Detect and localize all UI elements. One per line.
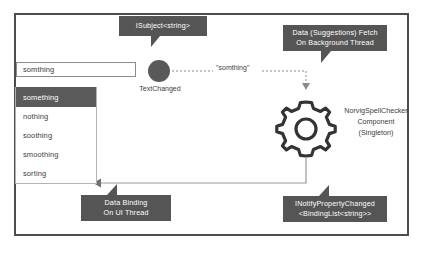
- callout-fetch: Data (Suggestions) Fetch On Background T…: [283, 25, 387, 51]
- list-item[interactable]: something: [16, 87, 96, 107]
- callout-databinding: Data Binding On UI Thread: [81, 195, 171, 221]
- callout-subject-line-1: ISubject<string>: [136, 21, 190, 31]
- list-item-label: smoothing: [23, 150, 59, 159]
- component-kind: Component: [336, 116, 416, 127]
- callout-tail: [151, 36, 160, 47]
- list-item[interactable]: sorting: [16, 164, 96, 183]
- observable-node-label: TextChanged: [128, 85, 192, 92]
- callout-fetch-line-2: On Background Thread: [296, 38, 374, 48]
- callout-inpc-line-1: INotifyPropertyChanged: [295, 199, 375, 209]
- callout-tail: [107, 184, 117, 195]
- list-item[interactable]: smoothing: [16, 145, 96, 164]
- callout-subject: ISubject<string>: [119, 16, 207, 36]
- component-label: NorvigSpellChecker Component (Singleton): [336, 105, 416, 138]
- edge-label-payload: "somthing": [214, 64, 251, 71]
- component-lifetime: (Singleton): [336, 127, 416, 138]
- callout-inotifypropertychanged: INotifyPropertyChanged <BindingList<stri…: [283, 196, 387, 222]
- callout-databinding-line-2: On UI Thread: [103, 208, 148, 218]
- callout-databinding-line-1: Data Binding: [105, 198, 148, 208]
- callout-fetch-line-1: Data (Suggestions) Fetch: [292, 28, 377, 38]
- component-name: NorvigSpellChecker: [336, 105, 416, 116]
- list-item[interactable]: soothing: [16, 126, 96, 145]
- search-input-value: somthing: [17, 65, 54, 74]
- callout-tail: [321, 51, 331, 63]
- list-item-label: soothing: [23, 131, 52, 140]
- observable-node: [148, 60, 170, 82]
- callout-inpc-line-2: <BindingList<string>>: [299, 209, 372, 219]
- list-item-label: nothing: [23, 112, 48, 121]
- callout-tail: [319, 185, 329, 196]
- diagram-canvas: somthing something nothing soothing smoo…: [0, 0, 424, 258]
- list-item[interactable]: nothing: [16, 107, 96, 126]
- search-input[interactable]: somthing: [16, 62, 136, 77]
- suggestions-dropdown[interactable]: something nothing soothing smoothing sor…: [15, 87, 97, 184]
- list-item-label: sorting: [23, 169, 46, 178]
- list-item-label: something: [23, 93, 59, 102]
